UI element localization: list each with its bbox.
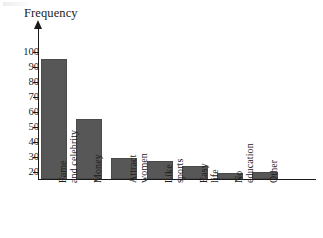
x-axis-category-label: Easy life — [199, 129, 220, 183]
x-axis-category-label: Like sports — [164, 129, 185, 183]
x-axis-category-label: No education — [234, 129, 255, 183]
x-axis-category-label: Fame and celebrity — [58, 129, 79, 183]
x-axis-category-label: Money — [93, 129, 104, 183]
bars-layer — [0, 0, 323, 238]
bar-chart-figure: Frequency 2030405060708090100 Fame and c… — [0, 0, 323, 238]
x-axis-category-label: Attract women — [128, 129, 149, 183]
x-axis-category-label: Other — [269, 129, 280, 183]
